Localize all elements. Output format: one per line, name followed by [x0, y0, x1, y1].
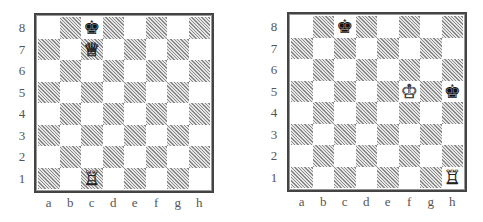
square-e1: [377, 167, 399, 189]
file-label: c: [334, 194, 356, 210]
square-f2: [146, 146, 168, 168]
square-d4: [103, 103, 125, 125]
square-c1: [334, 167, 356, 189]
file-label: a: [38, 195, 60, 211]
square-a7: [291, 38, 313, 60]
square-g8: [167, 17, 189, 39]
rank-label: 5: [268, 84, 280, 100]
square-d2: [103, 146, 125, 168]
square-c4: [334, 102, 356, 124]
file-label: d: [356, 194, 378, 210]
square-d2: [356, 145, 378, 167]
square-f3: [399, 124, 421, 146]
rank-label: 1: [268, 170, 280, 186]
square-e7: [124, 39, 146, 61]
square-h5: ♚: [442, 81, 464, 103]
square-f4: [399, 102, 421, 124]
square-b4: [313, 102, 335, 124]
square-a6: [291, 59, 313, 81]
file-label: b: [60, 195, 82, 211]
square-c1: ♖: [81, 168, 103, 190]
rank-label: 6: [16, 63, 28, 79]
square-a5: [291, 81, 313, 103]
square-f8: [399, 16, 421, 38]
black-king-icon: ♚: [83, 18, 100, 37]
square-c3: [81, 125, 103, 147]
square-d7: [103, 39, 125, 61]
square-a4: [291, 102, 313, 124]
square-f7: [399, 38, 421, 60]
square-h3: [442, 124, 464, 146]
square-g3: [420, 124, 442, 146]
square-c7: ♕: [81, 39, 103, 61]
file-label: g: [420, 194, 442, 210]
square-e3: [377, 124, 399, 146]
square-h3: [189, 125, 211, 147]
rank-label: 7: [268, 41, 280, 57]
square-c2: [334, 145, 356, 167]
square-d5: [356, 81, 378, 103]
square-b6: [313, 59, 335, 81]
square-g4: [420, 102, 442, 124]
file-label: b: [313, 194, 335, 210]
rank-label: 6: [268, 62, 280, 78]
file-label: e: [124, 195, 146, 211]
board-grid: ♚♔♚♖: [291, 16, 463, 188]
square-g2: [167, 146, 189, 168]
rank-label: 2: [268, 148, 280, 164]
file-label: c: [81, 195, 103, 211]
rank-label: 8: [16, 20, 28, 36]
square-g6: [420, 59, 442, 81]
square-h1: ♖: [442, 167, 464, 189]
square-a8: [38, 17, 60, 39]
square-b2: [60, 146, 82, 168]
square-g7: [420, 38, 442, 60]
square-h1: [189, 168, 211, 190]
square-f2: [399, 145, 421, 167]
square-a2: [291, 145, 313, 167]
square-b3: [313, 124, 335, 146]
square-b6: [60, 60, 82, 82]
square-a3: [291, 124, 313, 146]
white-rook-icon: ♖: [83, 169, 100, 188]
square-f3: [146, 125, 168, 147]
rank-label: 8: [268, 19, 280, 35]
square-f8: [146, 17, 168, 39]
square-b5: [60, 82, 82, 104]
square-d6: [103, 60, 125, 82]
square-a2: [38, 146, 60, 168]
square-a1: [38, 168, 60, 190]
square-d7: [356, 38, 378, 60]
square-e5: [377, 81, 399, 103]
square-c3: [334, 124, 356, 146]
square-b5: [313, 81, 335, 103]
rank-label: 3: [16, 128, 28, 144]
square-f7: [146, 39, 168, 61]
square-b1: [60, 168, 82, 190]
square-e4: [124, 103, 146, 125]
square-e4: [377, 102, 399, 124]
square-b2: [313, 145, 335, 167]
square-c6: [81, 60, 103, 82]
square-d6: [356, 59, 378, 81]
square-a1: [291, 167, 313, 189]
square-g8: [420, 16, 442, 38]
square-d5: [103, 82, 125, 104]
square-b8: [313, 16, 335, 38]
rank-label: 4: [268, 105, 280, 121]
square-h8: [442, 16, 464, 38]
file-label: d: [103, 195, 125, 211]
square-c8: ♚: [81, 17, 103, 39]
square-h4: [442, 102, 464, 124]
square-g2: [420, 145, 442, 167]
square-h2: [442, 145, 464, 167]
square-a5: [38, 82, 60, 104]
file-label: e: [377, 194, 399, 210]
file-label: h: [442, 194, 464, 210]
square-g5: [167, 82, 189, 104]
square-g4: [167, 103, 189, 125]
square-a4: [38, 103, 60, 125]
square-e2: [124, 146, 146, 168]
square-h4: [189, 103, 211, 125]
file-label: a: [291, 194, 313, 210]
